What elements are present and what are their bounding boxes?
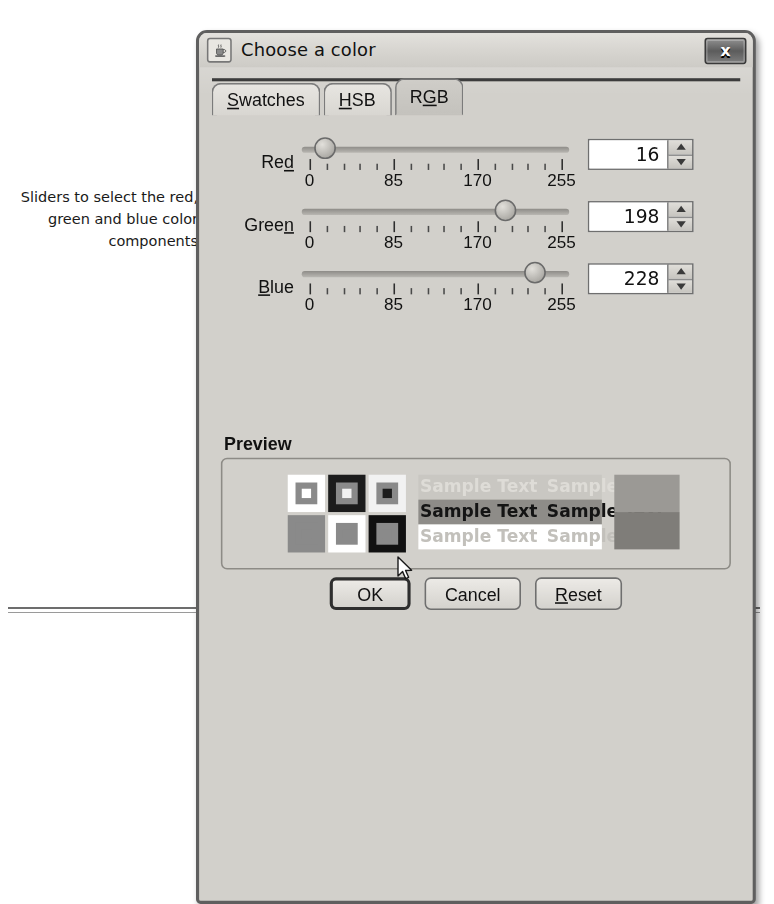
spinner-down-icon-red[interactable]	[669, 154, 692, 169]
ok-button[interactable]: OK	[330, 577, 411, 610]
slider-ticklabel: 0	[305, 170, 315, 189]
slider-ticklabel: 170	[463, 232, 492, 251]
close-icon[interactable]: x	[704, 38, 746, 64]
preview-swatch-middle	[336, 483, 358, 505]
rgb-panel: Red 085170255 16 Green	[212, 83, 741, 888]
preview-title: Preview	[224, 434, 731, 453]
slider-ticklabel: 85	[384, 294, 403, 313]
preview-swatch	[288, 515, 325, 552]
slider-ticklabel: 170	[463, 294, 492, 313]
slider-green[interactable]: 085170255	[302, 198, 569, 257]
spinner-up-icon-red[interactable]	[669, 140, 692, 153]
preview-swatch-grid	[288, 475, 406, 553]
slider-row-green: Green 085170255 198	[212, 198, 741, 257]
preview-swatch-middle	[296, 483, 318, 505]
choose-color-dialog: Choose a color x Swatches HSB RGB Red	[196, 30, 756, 904]
slider-row-blue: Blue 085170255 228	[212, 260, 741, 319]
spinner-buttons-green	[667, 203, 692, 231]
preview-swatch-middle	[296, 523, 318, 545]
preview-swatch-inner	[383, 489, 392, 498]
preview-swatch	[328, 475, 365, 512]
slider-track-green[interactable]	[302, 209, 569, 215]
cancel-button[interactable]: Cancel	[425, 577, 521, 610]
slider-thumb-red[interactable]	[314, 137, 336, 159]
annotation-caption: Sliders to select the red, green and blu…	[18, 186, 198, 252]
spinner-value-red[interactable]: 16	[589, 140, 667, 168]
preview-swatch	[328, 515, 365, 552]
spinner-up-icon-green[interactable]	[669, 203, 692, 216]
ok-button-label: OK	[357, 584, 383, 603]
slider-ticklabel: 170	[463, 170, 492, 189]
slider-red[interactable]: 085170255	[302, 136, 569, 195]
preview-sample-text-block: Sample TextSample TextSample TextSample …	[418, 475, 601, 550]
slider-ticklabels-blue: 085170255	[302, 294, 569, 316]
preview-swatch	[288, 475, 325, 512]
preview-swatch-inner	[302, 489, 311, 498]
slider-tick-major	[477, 221, 479, 232]
preview-section: Preview Sample TextSample TextSample Tex…	[221, 434, 731, 569]
reset-button-label: Reset	[555, 584, 602, 603]
spinner-red[interactable]: 16	[588, 139, 694, 170]
spinner-up-icon-blue[interactable]	[669, 265, 692, 278]
preview-color-blocks	[614, 475, 679, 550]
dialog-button-bar: OK Cancel Reset	[212, 577, 741, 610]
slider-ticklabels-green: 085170255	[302, 232, 569, 254]
preview-sample-text: Sample Text	[420, 501, 538, 521]
slider-tick-major	[561, 159, 563, 170]
slider-tick-major	[477, 159, 479, 170]
tab-rgb-label: RGB	[410, 88, 449, 107]
dialog-title: Choose a color	[241, 39, 376, 61]
slider-ticklabel: 0	[305, 294, 315, 313]
slider-ticklabel: 0	[305, 232, 315, 251]
spinner-buttons-red	[667, 140, 692, 168]
preview-sample-text: Sample Text	[420, 476, 538, 496]
preview-content: Sample TextSample TextSample TextSample …	[288, 475, 680, 553]
spinner-value-green[interactable]: 198	[589, 203, 667, 231]
slider-ticklabels-red: 085170255	[302, 170, 569, 192]
preview-box: Sample TextSample TextSample TextSample …	[221, 458, 731, 570]
preview-swatch	[369, 475, 406, 512]
slider-tick-major	[561, 221, 563, 232]
preview-swatch-inner	[302, 529, 311, 538]
slider-tick-major	[393, 221, 395, 232]
spinner-green[interactable]: 198	[588, 201, 694, 232]
slider-track-red[interactable]	[302, 147, 569, 153]
slider-ticklabel: 85	[384, 170, 403, 189]
slider-thumb-green[interactable]	[494, 199, 516, 221]
slider-ticklabel: 255	[547, 170, 576, 189]
slider-tick-major	[310, 159, 312, 170]
slider-tick-major	[310, 283, 312, 294]
preview-sample-text-row: Sample TextSample Text	[418, 475, 601, 500]
java-coffee-cup-icon	[207, 38, 232, 63]
spinner-down-icon-green[interactable]	[669, 216, 692, 231]
preview-swatch-inner	[342, 529, 351, 538]
slider-ticklabel: 255	[547, 232, 576, 251]
preview-swatch-middle	[376, 523, 398, 545]
slider-tick-major	[393, 159, 395, 170]
reset-button[interactable]: Reset	[535, 577, 622, 610]
preview-swatch-middle	[376, 483, 398, 505]
close-icon-glyph: x	[720, 43, 730, 59]
tab-rgb[interactable]: RGB	[394, 78, 464, 115]
slider-ticklabel: 255	[547, 294, 576, 313]
cancel-button-label: Cancel	[445, 584, 501, 603]
preview-swatch-inner	[383, 529, 392, 538]
tab-underline-rule	[212, 78, 741, 81]
slider-label-red: Red	[212, 136, 302, 172]
slider-label-green: Green	[212, 198, 302, 234]
spinner-buttons-blue	[667, 265, 692, 293]
spinner-value-blue[interactable]: 228	[589, 265, 667, 293]
slider-group: Red 085170255 16 Green	[212, 136, 741, 319]
preview-sample-text-row: Sample TextSample Text	[418, 524, 601, 549]
preview-swatch-middle	[336, 523, 358, 545]
slider-blue[interactable]: 085170255	[302, 260, 569, 319]
mouse-cursor-icon	[396, 556, 416, 582]
slider-thumb-blue[interactable]	[524, 262, 546, 284]
slider-tick-major	[477, 283, 479, 294]
spinner-down-icon-blue[interactable]	[669, 278, 692, 293]
slider-row-red: Red 085170255 16	[212, 136, 741, 195]
slider-tick-major	[393, 283, 395, 294]
slider-tick-major	[310, 221, 312, 232]
dialog-titlebar: Choose a color x	[199, 33, 753, 67]
spinner-blue[interactable]: 228	[588, 263, 694, 294]
